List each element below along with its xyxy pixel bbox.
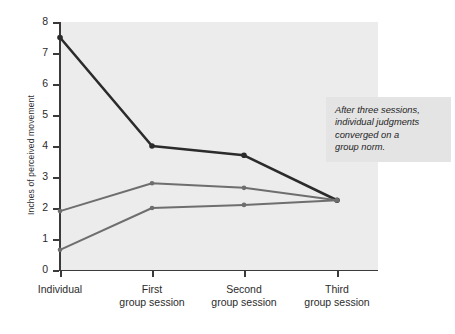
annotation-line-2: individual judgments — [335, 116, 443, 128]
data-point-s2-1 — [150, 206, 155, 211]
annotation-line-4: group norm. — [335, 141, 443, 153]
data-point-s0-2 — [241, 153, 247, 159]
data-point-s1-1 — [150, 181, 155, 186]
data-point-s0-0 — [57, 35, 63, 41]
series-line-2 — [60, 200, 337, 250]
data-point-s1-2 — [242, 186, 247, 191]
data-point-s2-0 — [58, 248, 63, 253]
data-point-s0-1 — [149, 143, 155, 149]
data-point-s2-2 — [242, 203, 247, 208]
data-point-s2-3 — [335, 198, 340, 203]
chart-figure: Inches of perceived movement 012345678 I… — [0, 0, 455, 334]
series-line-0 — [60, 38, 337, 201]
annotation-line-3: converged on a — [335, 129, 443, 141]
annotation-line-1: After three sessions, — [335, 104, 443, 116]
data-lines — [0, 0, 455, 334]
annotation-callout: After three sessions, individual judgmen… — [326, 97, 451, 162]
data-point-s1-0 — [58, 209, 63, 214]
